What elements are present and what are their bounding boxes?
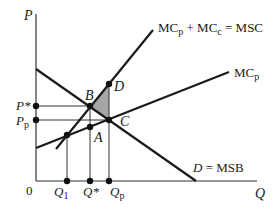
x-axis-label: Q (255, 186, 265, 201)
point-c (106, 117, 112, 123)
label-d: D (113, 79, 124, 94)
origin-label: 0 (26, 183, 33, 198)
label-a: A (93, 130, 103, 145)
p-star-axis-dot (33, 103, 39, 109)
point-q1-mcp (64, 132, 70, 138)
point-b (87, 103, 93, 109)
demand-curve-label: D = MSB (192, 160, 244, 175)
q-star-label: Q* (83, 184, 99, 199)
q1-label: Q1 (54, 184, 68, 201)
point-d (106, 81, 112, 87)
qp-label: Qp (110, 184, 124, 201)
p-p-axis-dot (33, 117, 39, 123)
label-b: B (85, 88, 94, 103)
msc-curve (56, 30, 153, 149)
mcp-curve-label: MCp (234, 65, 259, 82)
point-a (87, 124, 93, 130)
y-axis-label: P (23, 8, 33, 23)
externality-diagram: P Q 0 MCp + MCc = MSC MCp D = MSB B D C … (0, 0, 278, 212)
p-p-label: Pp (15, 113, 29, 130)
label-c: C (120, 114, 130, 129)
msc-curve-label: MCp + MCc = MSC (158, 20, 263, 37)
p-star-label: P* (15, 98, 31, 113)
q1-axis-dot (64, 178, 70, 184)
